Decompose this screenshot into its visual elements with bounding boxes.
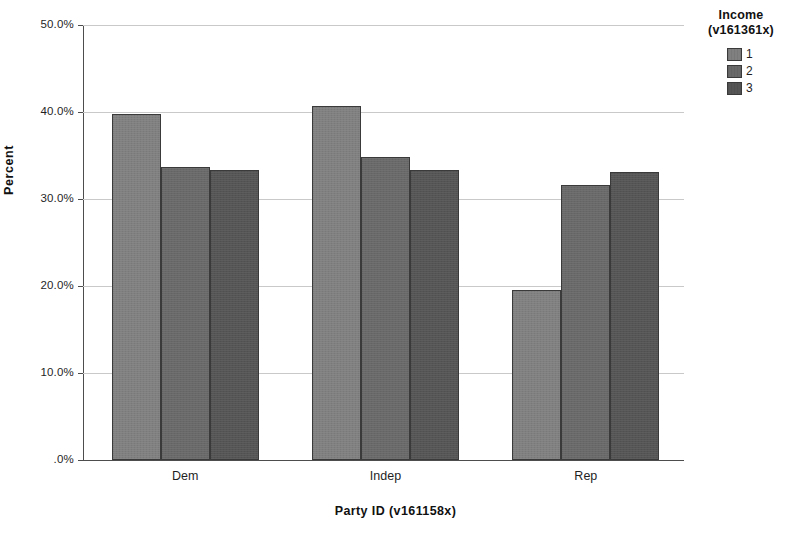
- bar: [161, 167, 210, 460]
- bar: [361, 157, 410, 460]
- legend-item[interactable]: 2: [727, 64, 755, 78]
- plot-area: [83, 25, 684, 461]
- legend-item[interactable]: 3: [727, 81, 755, 95]
- y-axis-tick-label: .0%: [54, 453, 74, 465]
- legend-swatch: [727, 48, 742, 61]
- x-axis-title: Party ID (v161158x): [0, 504, 791, 518]
- y-axis-tick-mark: [78, 199, 83, 200]
- y-axis-tick-mark: [78, 373, 83, 374]
- bar: [512, 290, 561, 460]
- y-axis-tick-label: 30.0%: [40, 192, 74, 204]
- y-axis-tick-label: 40.0%: [40, 105, 74, 117]
- y-axis-tick-mark: [78, 460, 83, 461]
- bar: [410, 170, 459, 460]
- x-axis-line: [83, 460, 684, 461]
- legend-items: 123: [693, 47, 789, 95]
- legend-title-line2: (v161361x): [693, 23, 789, 38]
- gridline: [83, 25, 684, 26]
- bar: [610, 172, 659, 460]
- x-axis-tick-label: Rep: [536, 469, 636, 483]
- legend-item-label: 3: [746, 81, 755, 95]
- x-axis-tick-label: Dem: [135, 469, 235, 483]
- bar: [210, 170, 259, 460]
- legend-item[interactable]: 1: [727, 47, 755, 61]
- bar: [312, 106, 361, 460]
- y-axis-tick-mark: [78, 112, 83, 113]
- legend-title-line1: Income: [693, 8, 789, 23]
- legend-swatch: [727, 82, 742, 95]
- bar-chart: Percent 50.0%40.0%30.0%20.0%10.0%.0% Dem…: [0, 0, 791, 541]
- legend: Income (v161361x) 123: [693, 8, 789, 95]
- y-axis-tick-mark: [78, 286, 83, 287]
- bar: [561, 185, 610, 460]
- y-axis-title: Percent: [2, 145, 16, 195]
- legend-title: Income (v161361x): [693, 8, 789, 38]
- y-axis-tick-label: 20.0%: [40, 279, 74, 291]
- gridline: [83, 112, 684, 113]
- y-axis-line: [83, 25, 84, 461]
- x-axis-tick-label: Indep: [336, 469, 436, 483]
- legend-item-label: 1: [746, 47, 755, 61]
- y-axis-tick-label: 10.0%: [40, 366, 74, 378]
- y-axis-tick-label: 50.0%: [40, 18, 74, 30]
- bar: [112, 114, 161, 460]
- legend-item-label: 2: [746, 64, 755, 78]
- y-axis-tick-mark: [78, 25, 83, 26]
- legend-swatch: [727, 65, 742, 78]
